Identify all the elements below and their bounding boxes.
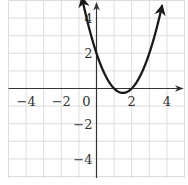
y-tick-label: −4 xyxy=(73,152,92,167)
y-tick-label: 2 xyxy=(84,46,92,61)
x-tick-label: 0 xyxy=(82,94,90,109)
function-graph: −4−202442−2−4 xyxy=(0,0,188,185)
x-tick-label: −2 xyxy=(52,94,71,109)
y-tick-label: −2 xyxy=(73,117,92,132)
parabola-right-branch xyxy=(123,6,162,93)
x-tick-label: 2 xyxy=(128,94,136,109)
parabola-curve xyxy=(82,0,162,93)
x-tick-label: 4 xyxy=(163,94,171,109)
x-tick-label: −4 xyxy=(17,94,36,109)
